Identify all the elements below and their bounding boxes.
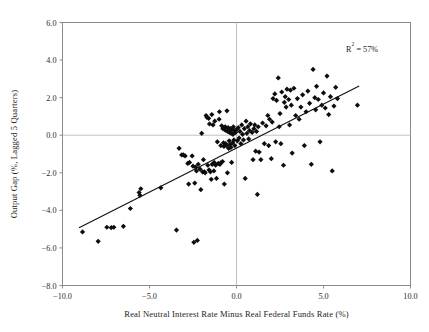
y-axis-tick-label: 0.0 [46, 131, 56, 140]
y-axis-tick-label: 6.0 [46, 19, 56, 28]
y-axis-tick-label: 2.0 [46, 94, 56, 103]
x-axis-tick-label: 5.0 [318, 292, 328, 301]
y-axis-title: Output Gap (%, Lagged 5 Quarters) [9, 90, 19, 219]
y-axis-tick-label: −4.0 [42, 206, 57, 215]
y-axis-tick-labels: 6.04.02.00.0−2.0−4.0−6.0−8.0 [42, 19, 63, 291]
x-axis-tick-label: −10.0 [53, 292, 72, 301]
x-axis-tick-label: 0.0 [231, 292, 241, 301]
x-axis-title: Real Neutral Interest Rate Minus Real Fe… [124, 309, 349, 319]
y-axis-tick-label: −8.0 [42, 282, 57, 291]
y-axis-tick-label: −6.0 [42, 244, 57, 253]
x-axis-tick-labels: −10.0−5.00.05.010.0 [53, 286, 418, 301]
x-axis-tick-label: −5.0 [142, 292, 157, 301]
y-axis-tick-label: −2.0 [42, 169, 57, 178]
chart-canvas: −10.0−5.00.05.010.0 6.04.02.00.0−2.0−4.0… [0, 0, 429, 332]
x-axis-tick-label: 10.0 [403, 292, 417, 301]
scatter-chart-figure: −10.0−5.00.05.010.0 6.04.02.00.0−2.0−4.0… [0, 0, 429, 332]
y-axis-tick-label: 4.0 [46, 56, 56, 65]
